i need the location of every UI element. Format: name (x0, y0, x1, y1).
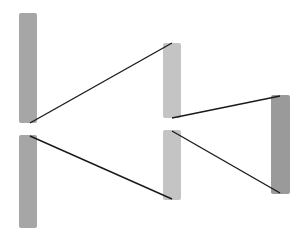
diagram-canvas (0, 0, 306, 241)
node-right (271, 95, 290, 194)
node-mid-bottom (163, 130, 181, 200)
edge-left-bottom-to-mid-bottom (30, 136, 172, 199)
edge-left-top-to-mid-top (30, 43, 172, 123)
node-left-bottom (19, 135, 37, 228)
node-left-top (19, 13, 37, 123)
node-mid-top (163, 43, 181, 118)
edge-mid-top-to-right (172, 96, 280, 118)
edge-mid-bottom-to-right (172, 131, 280, 193)
